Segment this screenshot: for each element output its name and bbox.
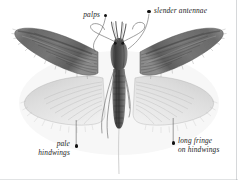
plate-bottom-edge — [0, 179, 238, 180]
callout-dot-slender-antennae — [147, 10, 150, 13]
callout-dot-long-fringe — [172, 141, 175, 144]
callout-dot-pale-hindwings — [75, 144, 78, 147]
label-slender-antennae: slender antennae — [154, 7, 207, 16]
label-palps-text: palps — [83, 10, 100, 19]
label-pale-hindwings: pale hindwings — [18, 140, 70, 157]
plate-right-edge — [236, 0, 237, 180]
callout-dot-palps — [104, 14, 107, 17]
label-palps: palps — [60, 11, 100, 20]
label-long-fringe-line2: on hindwings — [178, 146, 219, 155]
label-pale-hindwings-line2: hindwings — [18, 149, 70, 158]
label-long-fringe-on-hindwings: long fringe on hindwings — [178, 137, 219, 154]
label-slender-antennae-text: slender antennae — [154, 6, 207, 15]
